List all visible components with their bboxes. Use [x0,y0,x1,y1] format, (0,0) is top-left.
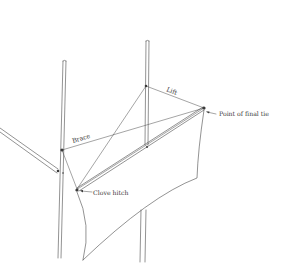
lift-label: Lift [166,85,179,96]
clove-hitch-label: Clove hitch [93,189,128,196]
left-diagonal-spar [0,128,59,173]
final-tie-pointer [206,112,216,115]
rigging-diagram: Lift Point of final tie Brace Clove hitc… [0,0,293,280]
right-pole-node [146,146,148,148]
lift-node [145,85,148,88]
final-tie-label: Point of final tie [219,110,269,117]
final-tie-node [202,106,205,109]
left-pole [58,60,66,258]
brace-node [60,148,63,151]
clove-hitch-pointer [80,190,92,193]
yard-spar [76,107,204,191]
right-pole [140,40,149,262]
brace-line [62,108,204,150]
clove-hitch-node [75,188,78,191]
left-to-hitch-line [62,150,77,189]
